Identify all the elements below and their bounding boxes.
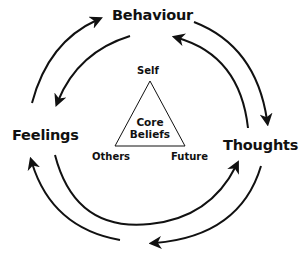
arrow-bottom-to-feelings [32, 163, 120, 240]
cognitive-cycle-diagram: Behaviour Feelings Thoughts Self Others … [0, 0, 304, 262]
vertex-future: Future [171, 152, 208, 162]
arrow-behaviour-to-feelings [58, 36, 130, 101]
core-label-line1: Core [128, 116, 172, 128]
node-feelings: Feelings [12, 128, 79, 143]
arrow-thoughts-to-feelings [155, 166, 261, 243]
arrow-behaviour-to-thoughts [194, 22, 267, 120]
arrow-feelings-to-thoughts [55, 155, 236, 225]
core-label-line2: Beliefs [128, 128, 172, 140]
node-behaviour: Behaviour [112, 8, 193, 23]
vertex-others: Others [92, 152, 130, 162]
core-beliefs-label: Core Beliefs [128, 116, 172, 140]
node-thoughts: Thoughts [223, 138, 298, 153]
vertex-self: Self [137, 66, 159, 76]
arrow-feelings-to-behaviour [32, 20, 97, 103]
